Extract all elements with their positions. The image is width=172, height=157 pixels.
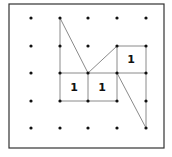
peg-dot <box>144 16 147 19</box>
peg-dot <box>144 126 147 129</box>
peg-dot <box>86 44 89 47</box>
peg-dot <box>86 16 89 19</box>
peg-dot <box>29 99 32 102</box>
peg-dot <box>58 126 61 129</box>
peg-dot <box>58 71 61 74</box>
peg-dot <box>29 44 32 47</box>
shape-segments <box>60 18 146 128</box>
peg-dot <box>115 126 118 129</box>
peg-dot <box>115 99 118 102</box>
peg-dot <box>86 71 89 74</box>
peg-dot <box>58 44 61 47</box>
peg-dot <box>86 126 89 129</box>
band-segment <box>117 73 146 128</box>
peg-dot <box>58 99 61 102</box>
area-label: 1 <box>127 53 135 66</box>
peg-dot <box>144 71 147 74</box>
peg-dot <box>115 16 118 19</box>
board-frame <box>9 4 164 148</box>
geoboard-diagram: 1 1 1 <box>0 0 172 157</box>
band-segment <box>88 46 117 73</box>
peg-dot <box>58 16 61 19</box>
peg-dot <box>115 44 118 47</box>
peg-dot <box>144 99 147 102</box>
peg-dot <box>29 16 32 19</box>
peg-dot <box>29 126 32 129</box>
peg-dot <box>29 71 32 74</box>
band-segment <box>60 18 88 73</box>
peg-dot <box>86 99 89 102</box>
peg-dot <box>115 71 118 74</box>
area-label: 1 <box>98 81 106 94</box>
peg-dot <box>144 44 147 47</box>
area-label: 1 <box>70 81 78 94</box>
